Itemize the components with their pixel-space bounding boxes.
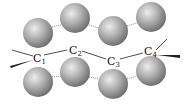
bond-c2-c3: [82, 51, 106, 59]
bond-c1-hash-end: [12, 50, 33, 56]
dash-bot-2-3: [89, 77, 99, 79]
atom-top-4: [136, 2, 166, 32]
bond-c1-wedge-end: [10, 60, 33, 68]
atom-bottom-3: [98, 69, 128, 99]
top-atoms: [23, 2, 166, 48]
atom-bottom-1: [23, 67, 53, 97]
bond-c1-c2: [44, 50, 67, 55]
bond-c4-hash-end: [156, 39, 167, 50]
atom-bottom-2: [60, 57, 90, 87]
bond-c4-wedge-end: [157, 55, 180, 58]
label-c3: C3: [107, 55, 120, 69]
atom-top-2: [60, 3, 90, 33]
atom-bottom-4: [136, 56, 166, 86]
label-c4: C4: [144, 45, 157, 59]
label-c2: C2: [69, 44, 82, 58]
bond-c3-c4: [120, 53, 143, 59]
dash-bot-3-4: [127, 76, 137, 79]
dash-bot-1-2: [52, 76, 61, 77]
dash-top-3-4: [127, 23, 137, 26]
atom-top-3: [98, 16, 128, 46]
dash-top-1-2: [52, 25, 61, 27]
dash-top-2-3: [89, 25, 99, 28]
molecule-diagram: C1 C2 C3 C4: [0, 0, 192, 104]
atom-top-1: [23, 18, 53, 48]
